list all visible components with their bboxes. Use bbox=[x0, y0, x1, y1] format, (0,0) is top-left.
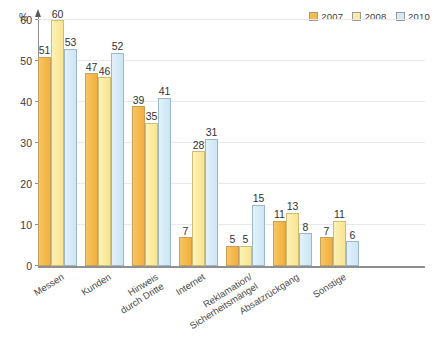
bar-group: 393541 bbox=[132, 20, 171, 266]
bar-value-label: 13 bbox=[287, 200, 299, 212]
bar-value-label: 28 bbox=[193, 139, 205, 151]
bar-2007-Internet[interactable]: 7 bbox=[179, 237, 192, 266]
bar-2007-HinweisdurchDritte[interactable]: 39 bbox=[132, 106, 145, 266]
bar-group: 7116 bbox=[320, 20, 359, 266]
bar-group: 72831 bbox=[179, 20, 218, 266]
category-label-line: Sonstige bbox=[310, 271, 347, 300]
bar-2008-HinweisdurchDritte[interactable]: 35 bbox=[145, 123, 158, 267]
bar-2010-Messen[interactable]: 53 bbox=[64, 49, 77, 266]
bar-2008-Sonstige[interactable]: 11 bbox=[333, 221, 346, 266]
bar-2008-ReklamationSicherheitsmängel[interactable]: 5 bbox=[239, 246, 252, 267]
bar-value-label: 11 bbox=[334, 208, 345, 220]
y-axis-tick-label: 10 bbox=[20, 219, 32, 231]
bar-group: 11138 bbox=[273, 20, 312, 266]
x-axis-category-label: Sonstige bbox=[310, 271, 347, 300]
bar-group-bars: 474652 bbox=[85, 20, 124, 266]
x-axis-category-label: Hinweisdurch Dritte bbox=[112, 271, 165, 316]
bar-value-label: 7 bbox=[324, 225, 330, 237]
x-axis-category-label: Internet bbox=[173, 271, 206, 297]
plot-area: 0102030405060516053474652393541728315515… bbox=[38, 20, 425, 266]
bar-value-label: 8 bbox=[303, 221, 309, 233]
bar-2010-Absatzrückgang[interactable]: 8 bbox=[299, 233, 312, 266]
bar-2007-Sonstige[interactable]: 7 bbox=[320, 237, 333, 266]
bar-value-label: 35 bbox=[146, 110, 158, 122]
y-axis-tick-label: 50 bbox=[20, 55, 32, 67]
bar-value-label: 39 bbox=[133, 94, 145, 106]
bar-2010-Internet[interactable]: 31 bbox=[205, 139, 218, 266]
bar-value-label: 53 bbox=[65, 36, 77, 48]
bar-value-label: 6 bbox=[350, 229, 356, 241]
bar-2008-Messen[interactable]: 60 bbox=[51, 20, 64, 266]
bar-group: 516053 bbox=[38, 20, 77, 266]
x-axis-category-label: Messen bbox=[31, 271, 65, 298]
bar-value-label: 41 bbox=[159, 85, 171, 97]
bar-2010-HinweisdurchDritte[interactable]: 41 bbox=[158, 98, 171, 266]
bar-group-bars: 393541 bbox=[132, 20, 171, 266]
y-axis-tick-label: 40 bbox=[20, 96, 32, 108]
category-label-line: Kunden bbox=[79, 271, 113, 298]
bar-group: 5515 bbox=[226, 20, 265, 266]
y-axis-tick-label: 30 bbox=[20, 137, 32, 149]
bar-value-label: 11 bbox=[274, 208, 285, 220]
bar-group: 474652 bbox=[85, 20, 124, 266]
bar-2007-Messen[interactable]: 51 bbox=[38, 57, 51, 266]
bar-value-label: 51 bbox=[39, 44, 51, 56]
bar-value-label: 46 bbox=[99, 65, 111, 77]
bar-value-label: 52 bbox=[112, 40, 124, 52]
bar-chart: 200720082010 % 0102030405060516053474652… bbox=[0, 0, 438, 352]
bar-2007-Absatzrückgang[interactable]: 11 bbox=[273, 221, 286, 266]
bar-2008-Absatzrückgang[interactable]: 13 bbox=[286, 213, 299, 266]
bar-value-label: 60 bbox=[52, 8, 64, 20]
bar-value-label: 47 bbox=[86, 61, 98, 73]
bar-2010-Sonstige[interactable]: 6 bbox=[346, 241, 359, 266]
bar-group-bars: 7116 bbox=[320, 20, 359, 266]
bar-value-label: 15 bbox=[253, 192, 265, 204]
bar-2007-ReklamationSicherheitsmängel[interactable]: 5 bbox=[226, 246, 239, 267]
bar-group-bars: 72831 bbox=[179, 20, 218, 266]
bar-group-bars: 5515 bbox=[226, 20, 265, 266]
bar-2010-ReklamationSicherheitsmängel[interactable]: 15 bbox=[252, 205, 265, 267]
bar-2010-Kunden[interactable]: 52 bbox=[111, 53, 124, 266]
bar-2008-Internet[interactable]: 28 bbox=[192, 151, 205, 266]
bar-group-bars: 11138 bbox=[273, 20, 312, 266]
bar-value-label: 5 bbox=[243, 233, 249, 245]
bar-2008-Kunden[interactable]: 46 bbox=[98, 77, 111, 266]
y-axis-tick-label: 20 bbox=[20, 178, 32, 190]
y-axis-tick-label: 0 bbox=[26, 260, 32, 272]
x-axis-category-label: Kunden bbox=[79, 271, 113, 298]
bar-group-bars: 516053 bbox=[38, 20, 77, 266]
bar-value-label: 5 bbox=[230, 233, 236, 245]
bar-value-label: 31 bbox=[206, 126, 218, 138]
y-axis-arrow-icon bbox=[35, 9, 41, 17]
bar-value-label: 7 bbox=[183, 225, 189, 237]
bar-2007-Kunden[interactable]: 47 bbox=[85, 73, 98, 266]
x-axis-line bbox=[38, 266, 425, 268]
y-axis-tick-label: 60 bbox=[20, 14, 32, 26]
category-label-line: Messen bbox=[31, 271, 65, 298]
category-label-line: Internet bbox=[173, 271, 206, 297]
